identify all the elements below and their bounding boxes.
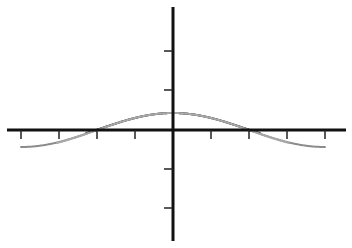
axes-layer <box>7 7 346 241</box>
chart <box>0 0 352 248</box>
chart-canvas <box>0 0 352 248</box>
